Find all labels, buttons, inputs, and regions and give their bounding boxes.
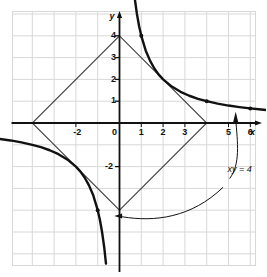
plot-canvas (0, 0, 266, 277)
x-tick-3: 3 (182, 128, 187, 137)
x-tick-5: 5 (226, 128, 231, 137)
axes (12, 11, 267, 272)
y-tick-neg2: -2 (105, 162, 113, 171)
curve-equation-label: xy = 4 (227, 165, 251, 174)
y-tick-1: 1 (111, 96, 116, 105)
annotation-leader-lines (114, 112, 238, 219)
y-tick-2: 2 (111, 75, 116, 84)
y-tick-3: 3 (111, 53, 116, 62)
graph-figure: -2012356784321-2 x y xy = 4 (0, 0, 266, 277)
y-axis-label: y (110, 12, 115, 21)
x-tick-0: 0 (112, 128, 117, 137)
x-tick-2: 2 (161, 128, 166, 137)
x-axis-label: x (250, 128, 255, 137)
x-tick-1: 1 (139, 128, 144, 137)
x-tick--2: -2 (73, 128, 81, 137)
y-tick-4: 4 (111, 31, 116, 40)
